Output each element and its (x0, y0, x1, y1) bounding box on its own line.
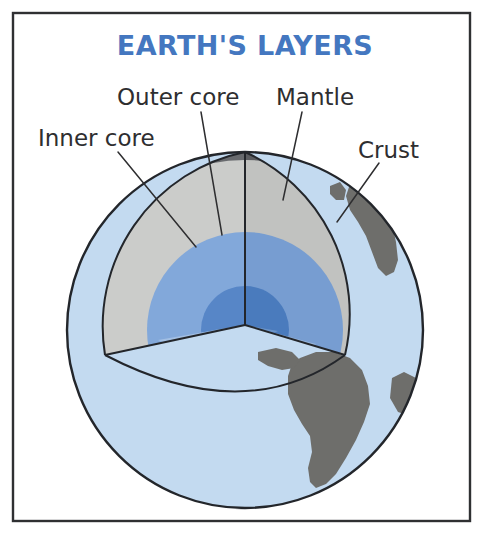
earth-layers-figure: EARTH'S LAYERS (0, 0, 483, 535)
earth-layers-illustration: EARTH'S LAYERS (0, 0, 483, 535)
label-mantle: Mantle (276, 84, 354, 110)
page-title: EARTH'S LAYERS (117, 30, 373, 61)
label-crust: Crust (358, 137, 419, 163)
label-outer-core: Outer core (117, 84, 239, 110)
globe-graphic (67, 152, 423, 508)
label-inner-core: Inner core (38, 125, 155, 151)
